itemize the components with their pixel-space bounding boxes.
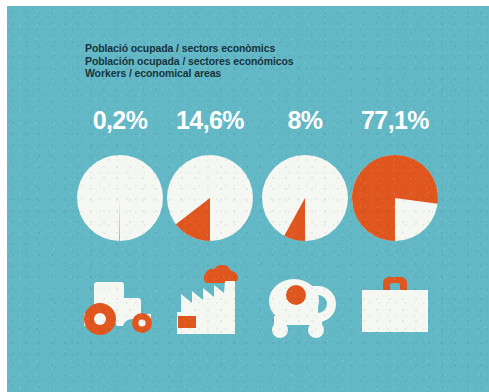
percent-label-industry: 14,6%	[176, 106, 244, 135]
percent-label-agriculture: 0,2%	[93, 106, 148, 135]
heading-line-english: Workers / economical areas	[85, 67, 294, 80]
pie-chart-construction	[261, 154, 349, 242]
poster: Població ocupada / sectors econòmics Pob…	[0, 0, 489, 392]
factory-icon	[167, 264, 253, 346]
percent-label-construction: 8%	[288, 106, 323, 135]
tractor-icon	[77, 264, 163, 346]
briefcase-icon	[352, 264, 438, 346]
pie-chart-agriculture	[76, 154, 164, 242]
pie-chart-services	[351, 154, 439, 242]
pie-chart-industry	[166, 154, 254, 242]
sector-icon-row	[77, 264, 437, 346]
cement-mixer-icon	[262, 264, 348, 346]
infographic-canvas: Població ocupada / sectors econòmics Pob…	[7, 6, 489, 392]
pie-chart-row	[77, 154, 437, 246]
percent-label-services: 77,1%	[361, 106, 429, 135]
percentage-row: 0,2% 14,6% 8% 77,1%	[77, 106, 437, 136]
heading-line-spanish: Población ocupada / sectores económicos	[85, 55, 294, 68]
heading-line-catalan: Població ocupada / sectors econòmics	[85, 42, 294, 55]
heading-block: Població ocupada / sectors econòmics Pob…	[85, 42, 294, 80]
